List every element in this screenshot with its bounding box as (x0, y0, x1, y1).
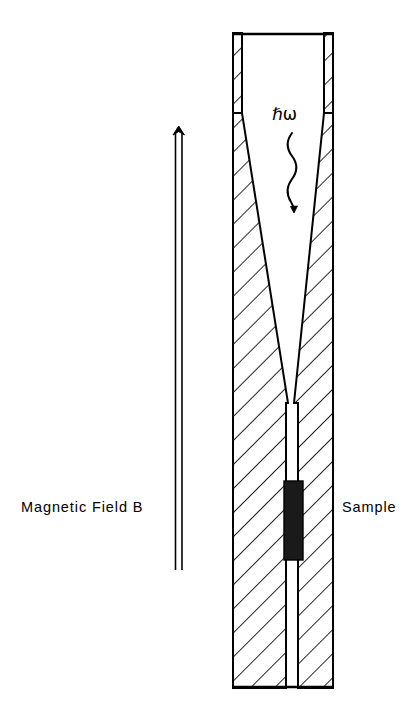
photon-wavy-arrow (287, 133, 297, 213)
apparatus-diagram-svg (0, 0, 420, 711)
neck-wall-left (233, 33, 242, 115)
photon-energy-label: ℏω (272, 106, 297, 123)
cone-wall-right (294, 113, 333, 688)
magnetic-field-label: Magnetic Field B (21, 500, 143, 515)
sample-label: Sample (342, 500, 397, 515)
sample-block (284, 481, 303, 560)
cone-wall-left (233, 113, 288, 688)
magnetic-field-arrow (173, 126, 184, 570)
apparatus-body (233, 33, 333, 688)
neck-wall-right (324, 33, 333, 115)
figure-root: Magnetic Field B Sample ℏω (0, 0, 420, 711)
